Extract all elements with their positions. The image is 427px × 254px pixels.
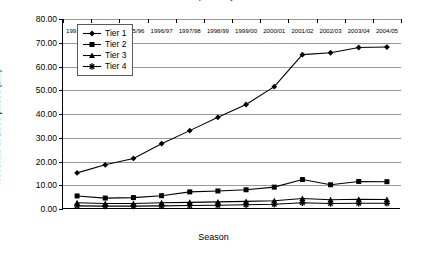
data-point xyxy=(102,162,108,168)
y-axis-title: Revenue in 2005 prices (£m) xyxy=(0,69,2,185)
y-axis-tick-label: 10.00 xyxy=(36,180,57,190)
data-point xyxy=(327,200,333,206)
x-axis-tick xyxy=(401,19,402,23)
data-point xyxy=(215,114,221,120)
legend-item-tier-2[interactable]: Tier 2 xyxy=(81,39,126,50)
data-point xyxy=(328,50,334,56)
chart-title: Revenue in 2005 prices by tier and seaso… xyxy=(0,0,427,1)
data-point xyxy=(243,102,249,108)
y-axis-tick-label: 60.00 xyxy=(36,62,57,72)
data-point xyxy=(272,185,277,190)
data-point xyxy=(131,156,137,162)
data-point xyxy=(356,45,362,51)
legend-item-tier-3[interactable]: Tier 3 xyxy=(81,50,126,61)
chart-legend: Tier 1Tier 2Tier 3Tier 4 xyxy=(77,24,133,76)
data-point xyxy=(384,179,389,184)
y-axis-tick-label: 70.00 xyxy=(36,38,57,48)
data-point xyxy=(103,196,108,201)
data-point xyxy=(243,202,249,208)
x-axis-title: Season xyxy=(0,232,427,242)
data-point xyxy=(159,193,164,198)
data-point xyxy=(187,128,193,134)
square-marker-icon xyxy=(81,39,103,50)
diamond-marker-icon xyxy=(81,28,103,39)
data-point xyxy=(300,177,305,182)
y-axis-tick-label: 40.00 xyxy=(36,109,57,119)
data-point xyxy=(187,189,192,194)
data-point xyxy=(158,203,164,209)
legend-item-label: Tier 1 xyxy=(105,28,126,39)
data-point xyxy=(187,202,193,208)
data-point xyxy=(102,203,108,209)
star-marker-icon xyxy=(81,61,103,72)
triangle-marker-icon xyxy=(81,50,103,61)
y-axis-tick-label: 50.00 xyxy=(36,85,57,95)
plot-area: 0.0010.0020.0030.0040.0050.0060.0070.008… xyxy=(62,19,400,209)
series-tier-3 xyxy=(74,196,390,206)
series-tier-2 xyxy=(75,177,390,201)
y-axis-tick-label: 30.00 xyxy=(36,133,57,143)
data-point xyxy=(75,193,80,198)
series-tier-4 xyxy=(74,200,390,210)
y-axis-tick-label: 0.00 xyxy=(40,204,57,214)
data-point xyxy=(271,201,277,207)
data-point xyxy=(384,200,390,206)
legend-item-tier-1[interactable]: Tier 1 xyxy=(81,28,126,39)
y-axis-tick-label: 20.00 xyxy=(36,157,57,167)
data-point xyxy=(159,141,165,147)
data-point xyxy=(356,179,361,184)
data-point xyxy=(74,203,80,209)
y-axis-tick-label: 80.00 xyxy=(36,14,57,24)
legend-item-label: Tier 3 xyxy=(105,50,126,61)
data-point xyxy=(244,187,249,192)
data-point xyxy=(328,182,333,187)
y-axis-tick xyxy=(59,209,63,210)
legend-item-label: Tier 4 xyxy=(105,61,126,72)
legend-item-label: Tier 2 xyxy=(105,39,126,50)
data-point xyxy=(74,170,80,176)
chart-figure: Revenue in 2005 prices by tier and seaso… xyxy=(0,0,427,254)
data-point xyxy=(384,44,390,50)
data-point xyxy=(131,195,136,200)
legend-item-tier-4[interactable]: Tier 4 xyxy=(81,61,126,72)
data-point xyxy=(215,188,220,193)
